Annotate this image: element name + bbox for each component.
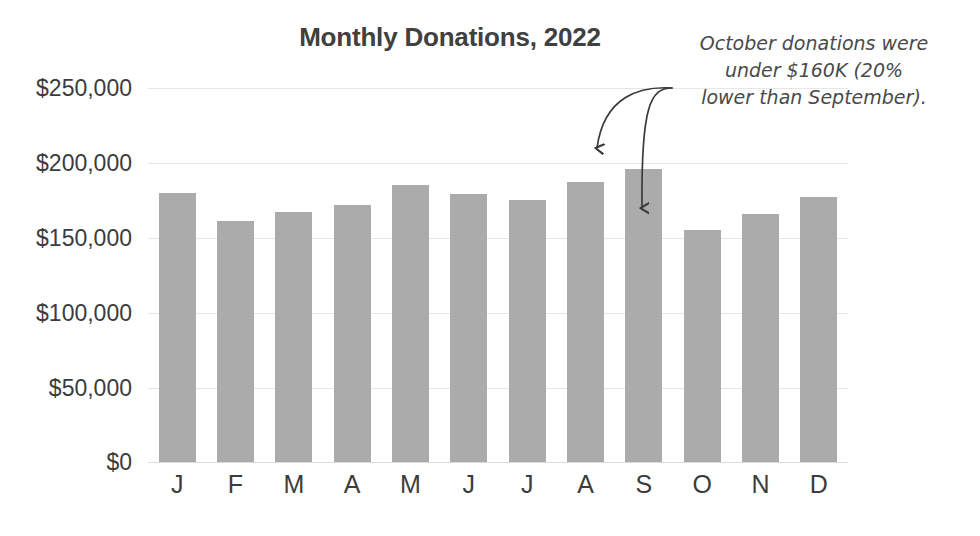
bar-chart: Monthly Donations, 2022 $250,000 $200,00… [0, 0, 980, 536]
y-tick-label-200000: $200,000 [0, 150, 132, 177]
bar-june [450, 194, 487, 462]
bar-august [567, 182, 604, 462]
x-tick-label-august: A [563, 470, 609, 499]
y-tick-label-250000: $250,000 [0, 75, 132, 102]
bar-march [275, 212, 312, 462]
bars-container [148, 88, 848, 462]
x-tick-label-february: F [213, 470, 259, 499]
bar-february [217, 221, 254, 462]
x-tick-label-september: S [621, 470, 667, 499]
bar-september [625, 169, 662, 462]
october-callout-annotation: October donations were under $160K (20% … [654, 30, 974, 111]
x-tick-label-march: M [271, 470, 317, 499]
bar-december [800, 197, 837, 462]
bar-january [159, 193, 196, 462]
bar-november [742, 214, 779, 462]
y-tick-label-0: $0 [0, 449, 132, 476]
x-tick-label-october: O [679, 470, 725, 499]
bar-april [334, 205, 371, 462]
x-axis-labels: JFMAMJJASOND [148, 470, 848, 510]
x-tick-label-may: M [388, 470, 434, 499]
x-tick-label-november: N [738, 470, 784, 499]
x-tick-label-december: D [796, 470, 842, 499]
y-tick-label-100000: $100,000 [0, 300, 132, 327]
x-tick-label-april: A [329, 470, 375, 499]
annotation-line-1: October donations were [654, 30, 974, 57]
x-tick-label-january: J [154, 470, 200, 499]
y-tick-label-50000: $50,000 [0, 375, 132, 402]
y-axis-labels: $250,000 $200,000 $150,000 $100,000 $50,… [0, 0, 132, 536]
bar-july [509, 200, 546, 462]
annotation-line-2: under $160K (20% [654, 57, 974, 84]
x-tick-label-june: J [446, 470, 492, 499]
x-tick-label-july: J [504, 470, 550, 499]
bar-may [392, 185, 429, 462]
gridline-baseline-0 [148, 462, 848, 463]
y-tick-label-150000: $150,000 [0, 225, 132, 252]
bar-october [684, 230, 721, 462]
annotation-line-3: lower than September). [654, 84, 974, 111]
